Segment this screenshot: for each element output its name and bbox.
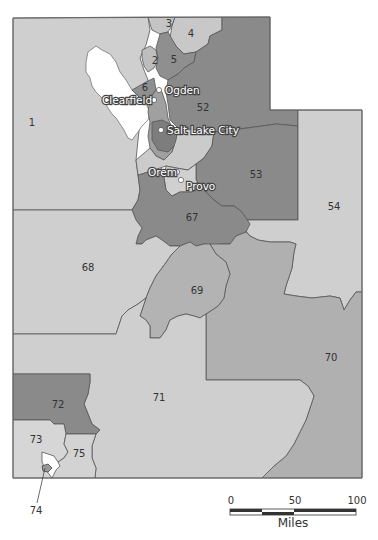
region-label-3: 3 <box>166 18 172 29</box>
city-label-clearfield: Clearfield <box>102 94 152 106</box>
region-label-72: 72 <box>52 399 65 410</box>
city-label-orem: Orem <box>148 166 177 178</box>
scale-tick-50: 50 <box>289 495 302 506</box>
scale-tick-0: 0 <box>228 495 234 506</box>
city-label-ogden: Ogden <box>165 84 200 96</box>
region-label-71: 71 <box>153 392 166 403</box>
region-label-73: 73 <box>30 434 43 445</box>
scale-tick-100: 100 <box>347 495 366 506</box>
region-label-70: 70 <box>325 352 338 363</box>
region-label-6: 6 <box>142 82 148 93</box>
region-label-1: 1 <box>29 117 35 128</box>
city-marker-ogden[interactable] <box>156 87 161 92</box>
region-label-4: 4 <box>188 28 194 39</box>
region-label-52: 52 <box>197 102 210 113</box>
region-74[interactable] <box>42 464 52 472</box>
region-label-2: 2 <box>152 55 158 66</box>
city-label-salt-lake-city: Salt Lake City <box>167 124 239 136</box>
region-label-69: 69 <box>191 285 204 296</box>
region-label-74: 74 <box>30 505 43 516</box>
utah-region-map: 1 2 3 4 5 6 52 53 54 67 68 69 70 71 72 7… <box>0 0 378 540</box>
region-label-54: 54 <box>328 201 341 212</box>
scale-bar: 0 50 100 Miles <box>228 495 367 530</box>
region-label-68: 68 <box>82 262 95 273</box>
region-label-75: 75 <box>73 448 86 459</box>
city-marker-clearfield[interactable] <box>151 97 156 102</box>
scale-unit-label: Miles <box>278 516 309 530</box>
region-label-53: 53 <box>250 169 263 180</box>
region-label-5: 5 <box>171 54 177 65</box>
city-marker-salt-lake-city[interactable] <box>158 127 163 132</box>
city-label-provo: Provo <box>186 180 215 192</box>
city-marker-provo[interactable] <box>178 177 183 182</box>
region-label-67: 67 <box>186 212 199 223</box>
